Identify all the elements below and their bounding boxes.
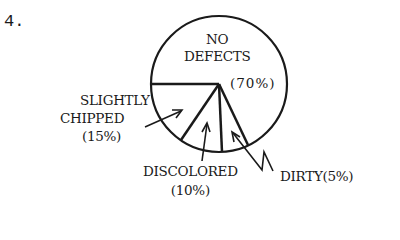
label-slightly-chipped: SLIGHTLY CHIPPED (15%) — [60, 91, 150, 145]
label-dirty: DIRTY(5%) — [280, 168, 353, 185]
label-no-defects: NO DEFECTS — [184, 31, 250, 65]
label-no-defects-pct: (70%) — [230, 75, 276, 92]
label-discolored: DISCOLORED (10%) — [143, 162, 238, 200]
